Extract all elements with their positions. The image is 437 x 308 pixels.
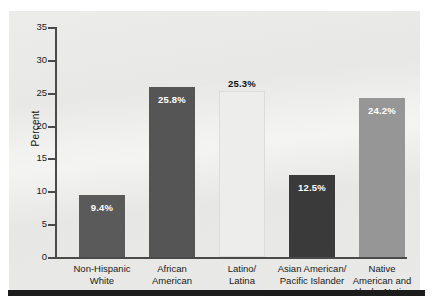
category-label-line: American: [137, 275, 207, 287]
y-axis-tick-30: [48, 60, 56, 62]
bar-value-label-2: 25.8%: [149, 94, 195, 105]
category-label-line: Asian American/: [277, 263, 347, 275]
category-label-line: Non-Hispanic: [67, 263, 137, 275]
y-axis-tick-35: [48, 27, 56, 29]
y-axis-tick-25: [48, 93, 56, 95]
bar-5: 24.2%: [359, 98, 405, 257]
figure-panel: 35302520151050 Percent 9.4%25.8%25.3%12.…: [9, 11, 420, 290]
bar-value-label-4: 12.5%: [289, 182, 335, 193]
y-axis-tick-label-30: 30: [21, 55, 47, 65]
category-label-3: Latino/Latina: [207, 263, 277, 286]
category-label-line: Latino/: [207, 263, 277, 275]
bar-4: 12.5%: [289, 175, 335, 257]
category-label-line: Pacific Islander: [277, 275, 347, 287]
x-axis-line: [55, 257, 407, 259]
bar-3: 25.3%: [219, 91, 265, 257]
bar-1: 9.4%: [79, 195, 125, 257]
category-label-line: Native: [347, 263, 417, 275]
y-axis-tick-20: [48, 126, 56, 128]
y-axis-tick-label-35: 35: [21, 22, 47, 32]
bottom-horizontal-rule: [8, 290, 425, 296]
y-axis-tick-10: [48, 191, 56, 193]
y-axis-tick-label-0: 0: [21, 252, 47, 262]
y-axis-tick-15: [48, 158, 56, 160]
category-label-5: NativeAmerican andAlaska Native: [347, 263, 417, 290]
x-axis-category-labels: Non-HispanicWhiteAfricanAmericanLatino/L…: [55, 263, 407, 290]
category-label-line: White: [67, 275, 137, 287]
category-label-4: Asian American/Pacific Islander: [277, 263, 347, 286]
bar-2: 25.8%: [149, 87, 195, 257]
category-label-line: Latina: [207, 275, 277, 287]
y-axis-tick-0: [48, 257, 56, 259]
bar-value-label-5: 24.2%: [359, 105, 405, 116]
bar-value-label-1: 9.4%: [79, 202, 125, 213]
plot-area: 35302520151050 Percent 9.4%25.8%25.3%12.…: [55, 27, 407, 259]
category-label-line: African: [137, 263, 207, 275]
y-axis-tick-label-10: 10: [21, 186, 47, 196]
y-axis-tick-label-5: 5: [21, 219, 47, 229]
category-label-1: Non-HispanicWhite: [67, 263, 137, 286]
category-label-2: AfricanAmerican: [137, 263, 207, 286]
y-axis-tick-5: [48, 224, 56, 226]
y-axis-title: Percent: [30, 89, 41, 169]
bar-value-label-3: 25.3%: [220, 78, 264, 89]
category-label-line: American and: [347, 275, 417, 287]
